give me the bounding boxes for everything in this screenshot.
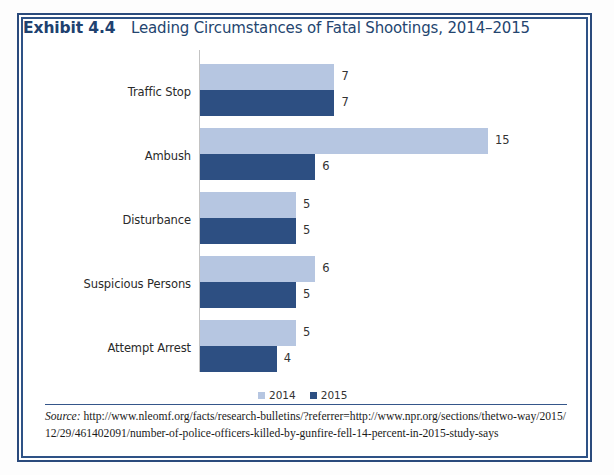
bar-group: Ambush156 bbox=[23, 128, 543, 192]
exhibit-number: Exhibit 4.4 bbox=[23, 19, 116, 37]
legend-swatch-icon bbox=[310, 392, 317, 399]
bar-group: Suspicious Persons65 bbox=[23, 256, 543, 320]
bar-2014[interactable] bbox=[200, 192, 296, 218]
bar-value-label: 5 bbox=[303, 197, 310, 211]
bar-value-label: 4 bbox=[284, 351, 291, 365]
exhibit-header: Exhibit 4.4 Leading Circumstances of Fat… bbox=[23, 19, 530, 37]
legend-label: 2015 bbox=[321, 389, 348, 401]
bar-2015[interactable] bbox=[200, 90, 334, 116]
bar-2014[interactable] bbox=[200, 128, 488, 154]
source-note: Source: http://www.nleomf.org/facts/rese… bbox=[45, 408, 575, 442]
bar-group: Attempt Arrest54 bbox=[23, 320, 543, 384]
bar-value-label: 7 bbox=[341, 69, 348, 83]
legend-swatch-icon bbox=[258, 392, 265, 399]
bar-value-label: 5 bbox=[303, 223, 310, 237]
bar-2014[interactable] bbox=[200, 256, 315, 282]
source-label: Source: bbox=[45, 410, 81, 423]
category-label: Disturbance bbox=[21, 213, 191, 227]
bar-2014[interactable] bbox=[200, 64, 334, 90]
bar-2015[interactable] bbox=[200, 282, 296, 308]
bar-value-label: 6 bbox=[322, 261, 329, 275]
source-url-line1: http://www.nleomf.org/facts/research-bul… bbox=[81, 410, 566, 423]
legend-label: 2014 bbox=[269, 389, 296, 401]
bar-2015[interactable] bbox=[200, 218, 296, 244]
bar-value-label: 6 bbox=[322, 159, 329, 173]
bar-value-label: 5 bbox=[303, 287, 310, 301]
bar-2015[interactable] bbox=[200, 154, 315, 180]
category-label: Traffic Stop bbox=[21, 85, 191, 99]
legend-item-2014[interactable]: 2014 bbox=[258, 389, 296, 401]
category-label: Ambush bbox=[21, 149, 191, 163]
category-label: Suspicious Persons bbox=[21, 277, 191, 291]
bar-value-label: 15 bbox=[495, 133, 510, 147]
bar-value-label: 7 bbox=[341, 95, 348, 109]
legend-item-2015[interactable]: 2015 bbox=[310, 389, 348, 401]
bar-chart: Traffic Stop77Ambush156Disturbance55Susp… bbox=[23, 50, 543, 380]
bar-value-label: 5 bbox=[303, 325, 310, 339]
category-label: Attempt Arrest bbox=[21, 341, 191, 355]
source-divider bbox=[45, 404, 567, 405]
exhibit-page: Exhibit 4.4 Leading Circumstances of Fat… bbox=[0, 0, 614, 475]
source-url-line2: 12/29/461402091/number-of-police-officer… bbox=[45, 425, 575, 442]
bar-group: Disturbance55 bbox=[23, 192, 543, 256]
bar-group: Traffic Stop77 bbox=[23, 64, 543, 128]
bar-2014[interactable] bbox=[200, 320, 296, 346]
bar-2015[interactable] bbox=[200, 346, 277, 372]
page-title: Leading Circumstances of Fatal Shootings… bbox=[131, 19, 530, 37]
chart-legend: 20142015 bbox=[258, 389, 347, 401]
